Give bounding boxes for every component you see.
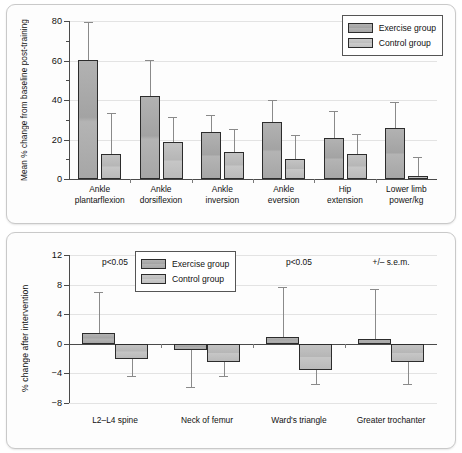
- chart-annotation: p<0.05: [253, 257, 345, 267]
- y-tick-label: 80: [52, 16, 62, 26]
- bar-exercise: [78, 60, 98, 179]
- error-bar-cap: [168, 117, 177, 118]
- y-tick-label: 0: [57, 339, 62, 349]
- y-axis-line: [69, 21, 70, 179]
- bar-control: [115, 344, 148, 359]
- y-axis-line: [69, 255, 70, 403]
- x-tick-mark: [376, 179, 377, 183]
- bar-exercise: [262, 122, 282, 179]
- chart-annotation: p<0.05: [69, 257, 161, 267]
- error-bar: [395, 102, 396, 128]
- gridline: [69, 373, 437, 374]
- legend-swatch-control-icon: [348, 38, 373, 48]
- x-tick-mark: [130, 179, 131, 183]
- error-bar-cap: [291, 135, 300, 136]
- bar-control: [101, 154, 121, 179]
- y-tick-label: 12: [52, 250, 62, 260]
- error-bar: [283, 287, 284, 337]
- chart-annotation: +/– s.e.m.: [345, 257, 437, 267]
- chart-panel-top: Mean % change from baseline post-trainin…: [6, 4, 456, 224]
- error-bar: [191, 350, 192, 387]
- y-tick-label: −4: [52, 368, 62, 378]
- error-bar-cap: [311, 384, 320, 385]
- bar-control: [207, 344, 240, 363]
- bar-exercise: [324, 138, 344, 179]
- y-axis-label-bottom: % change after intervention: [20, 273, 30, 403]
- error-bar-cap: [229, 129, 238, 130]
- gridline: [69, 255, 437, 256]
- error-bar: [132, 359, 133, 377]
- bar-exercise: [140, 96, 160, 179]
- legend-label-control: Control group: [379, 38, 431, 48]
- legend-item-control: Control group: [348, 36, 436, 49]
- gridline: [69, 285, 437, 286]
- x-axis-category-label: Ward's triangle: [253, 415, 345, 426]
- error-bar-cap: [403, 384, 412, 385]
- x-tick-mark: [253, 179, 254, 183]
- x-axis-category-label: Ankle inversion: [192, 184, 253, 205]
- legend-label-exercise: Exercise group: [172, 259, 229, 269]
- error-bar-cap: [278, 287, 287, 288]
- x-tick-mark: [192, 179, 193, 183]
- legend-swatch-exercise-icon: [348, 23, 373, 33]
- error-bar: [234, 129, 235, 153]
- error-bar-cap: [329, 111, 338, 112]
- x-tick-mark: [345, 344, 346, 348]
- bar-control: [391, 344, 424, 363]
- plot-area-bottom: [69, 255, 437, 403]
- error-bar-cap: [186, 387, 195, 388]
- y-tick-label: 4: [57, 309, 62, 319]
- error-bar-cap: [206, 115, 215, 116]
- gridline: [69, 314, 437, 315]
- legend-swatch-control-icon: [141, 274, 166, 284]
- error-bar: [224, 362, 225, 375]
- x-axis-category-label: Ankle dorsiflexion: [130, 184, 191, 205]
- x-tick-mark: [253, 344, 254, 348]
- error-bar: [173, 117, 174, 142]
- y-tick-label: 8: [57, 280, 62, 290]
- error-bar: [334, 111, 335, 138]
- error-bar: [111, 113, 112, 154]
- x-axis-category-label: Hip extension: [314, 184, 375, 205]
- x-axis-category-label: Ankle plantarflexion: [69, 184, 130, 205]
- error-bar: [150, 60, 151, 97]
- bar-control: [224, 152, 244, 179]
- error-bar: [418, 157, 419, 176]
- error-bar-cap: [268, 100, 277, 101]
- y-tick-label: 0: [57, 174, 62, 184]
- error-bar-cap: [370, 289, 379, 290]
- error-bar-cap: [107, 113, 116, 114]
- gridline: [69, 100, 437, 101]
- bar-exercise: [82, 333, 115, 343]
- error-bar-cap: [94, 292, 103, 293]
- chart-panel-bottom: % change after intervention Exercise gro…: [6, 232, 456, 449]
- bar-control: [347, 154, 367, 179]
- legend-label-exercise: Exercise group: [379, 23, 436, 33]
- error-bar: [357, 134, 358, 154]
- y-axis-label-top: Mean % change from baseline post-trainin…: [20, 19, 29, 181]
- bar-exercise: [358, 339, 391, 343]
- x-axis-category-label: Neck of femur: [161, 415, 253, 426]
- bar-exercise: [266, 337, 299, 344]
- y-tick-label: 60: [52, 56, 62, 66]
- figure-container: Mean % change from baseline post-trainin…: [0, 0, 462, 453]
- gridline: [69, 403, 437, 404]
- error-bar: [316, 370, 317, 383]
- error-bar: [375, 289, 376, 339]
- y-tick-mark: [64, 403, 69, 404]
- error-bar-cap: [145, 60, 154, 61]
- bar-control: [408, 176, 428, 179]
- y-tick-label: −8: [52, 398, 62, 408]
- legend-item-control: Control group: [141, 272, 229, 285]
- gridline: [69, 61, 437, 62]
- bar-exercise: [385, 128, 405, 179]
- error-bar-cap: [84, 22, 93, 23]
- bar-control: [299, 344, 332, 371]
- bar-exercise: [201, 132, 221, 179]
- error-bar-cap: [219, 376, 228, 377]
- legend-label-control: Control group: [172, 274, 224, 284]
- error-bar: [99, 292, 100, 333]
- error-bar: [272, 100, 273, 122]
- legend-top: Exercise group Control group: [342, 15, 443, 56]
- error-bar: [211, 115, 212, 132]
